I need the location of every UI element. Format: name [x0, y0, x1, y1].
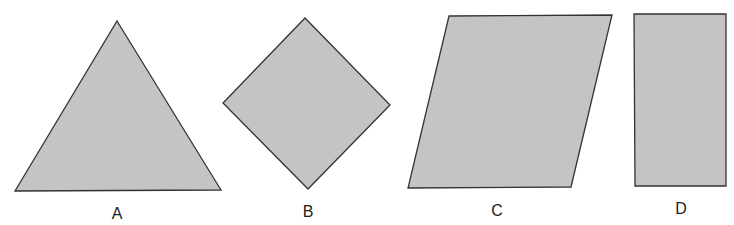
shape-c-parallelogram	[408, 15, 612, 188]
label-c: C	[491, 202, 503, 219]
label-a: A	[112, 205, 123, 222]
label-b: B	[303, 203, 314, 220]
shapes-diagram: A B C D	[0, 0, 734, 225]
label-d: D	[675, 200, 687, 217]
shape-b-square	[223, 18, 390, 189]
shape-d-rectangle	[634, 14, 726, 186]
shape-a-triangle	[15, 21, 221, 191]
